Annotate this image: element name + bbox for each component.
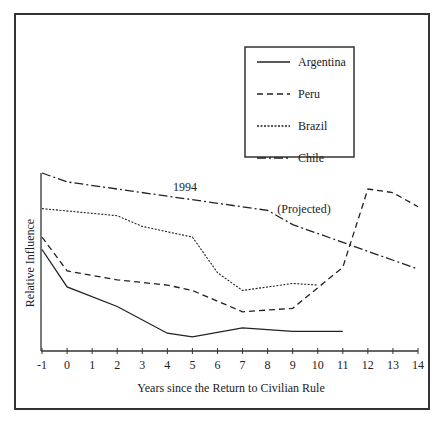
axes: -101234567891011121314: [37, 173, 424, 372]
legend: ArgentinaPeruBrazilChile: [245, 47, 354, 165]
y-axis-label: Relative Influence: [23, 219, 37, 307]
x-tick-label: 1: [89, 358, 95, 372]
legend-label-brazil: Brazil: [298, 119, 328, 133]
x-axis-label: Years since the Return to Civilian Rule: [137, 381, 324, 395]
x-tick-label: 12: [362, 358, 374, 372]
series-brazil: [42, 209, 318, 291]
annotation-projected: (Projected): [277, 202, 330, 216]
x-tick-label: 10: [312, 358, 324, 372]
series-lines: [42, 173, 418, 337]
annotation-1994: 1994: [173, 180, 197, 194]
legend-label-peru: Peru: [298, 87, 320, 101]
legend-label-chile: Chile: [298, 151, 324, 165]
x-tick-label: 3: [139, 358, 145, 372]
x-tick-label: 5: [189, 358, 195, 372]
x-tick-label: 14: [412, 358, 424, 372]
series-argentina: [42, 250, 343, 337]
line-chart: -101234567891011121314 ArgentinaPeruBraz…: [0, 0, 443, 425]
x-tick-label: 7: [240, 358, 246, 372]
x-tick-label: 2: [114, 358, 120, 372]
legend-label-argentina: Argentina: [298, 55, 346, 69]
x-tick-label: 9: [290, 358, 296, 372]
x-tick-label: 8: [265, 358, 271, 372]
x-tick-label: 0: [64, 358, 70, 372]
x-tick-label: 13: [387, 358, 399, 372]
x-tick-label: 6: [214, 358, 220, 372]
series-peru: [42, 189, 418, 312]
series-chile: [42, 173, 418, 269]
x-tick-label: 11: [337, 358, 349, 372]
x-tick-label: 4: [164, 358, 170, 372]
x-tick-label: -1: [37, 358, 47, 372]
